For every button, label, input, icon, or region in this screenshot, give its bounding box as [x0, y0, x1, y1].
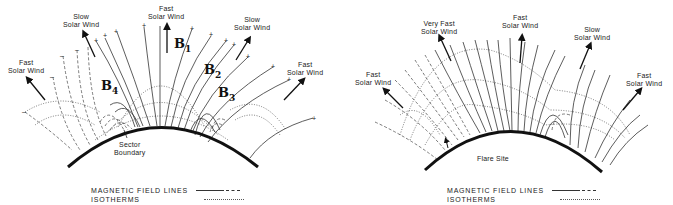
svg-text:+: + [312, 115, 316, 122]
wind-label-fast-far-right: Fast Solar Wind [287, 61, 323, 77]
wind-label-very-fast: Very Fast Solar Wind [421, 20, 457, 36]
svg-text:+: + [287, 76, 291, 83]
svg-text:–: – [50, 73, 54, 80]
diagram-right-graphic [340, 0, 673, 205]
svg-text:–: – [75, 46, 79, 53]
sector-boundary-line1: Sector [114, 141, 146, 149]
panel-flare-site: Fast Solar Wind Very Fast Solar Wind Fas… [340, 0, 673, 205]
legend-row-field-lines: MAGNETIC FIELD LINES [91, 186, 244, 195]
wind-label-line1: Slow [234, 16, 270, 24]
wind-label-line2: Solar Wind [8, 67, 44, 75]
svg-text:+: + [232, 41, 236, 48]
wind-label-line1: Fast [626, 72, 662, 80]
sector-boundary-line2: Boundary [114, 149, 146, 157]
wind-label-line2: Solar Wind [63, 21, 99, 29]
field-label-b4: B4 [101, 78, 118, 96]
svg-text:–: – [22, 108, 26, 115]
legend-isotherms-label: ISOTHERMS [447, 196, 552, 203]
field-subscript: 3 [229, 93, 235, 103]
svg-text:+: + [190, 25, 194, 32]
legend-left: MAGNETIC FIELD LINES ISOTHERMS [91, 186, 244, 204]
wind-label-line1: Fast [287, 61, 323, 69]
field-subscript: 4 [112, 86, 118, 96]
wind-label-line2: Solar Wind [234, 24, 270, 32]
legend-dashed-line-swatch [582, 190, 596, 191]
wind-label-line1: Slow [574, 26, 610, 34]
legend-row-field-lines: MAGNETIC FIELD LINES [447, 186, 600, 195]
wind-label-fast-far-left: Fast Solar Wind [8, 59, 44, 75]
legend-dotted-line-swatch [560, 199, 600, 200]
wind-label-slow-left: Slow Solar Wind [63, 13, 99, 29]
svg-text:+: + [224, 37, 228, 44]
field-subscript: 2 [215, 70, 221, 80]
wind-label-line2: Solar Wind [421, 28, 457, 36]
field-label-b1: B1 [174, 36, 191, 54]
wind-label-line1: Fast [8, 59, 44, 67]
wind-label-fast-far-left: Fast Solar Wind [355, 71, 391, 87]
field-label-b3: B3 [218, 85, 235, 103]
legend-solid-line-swatch [552, 190, 580, 191]
svg-text:+: + [103, 32, 107, 39]
wind-label-line1: Fast [355, 71, 391, 79]
legend-field-lines-label: MAGNETIC FIELD LINES [91, 187, 196, 194]
diagram-left-graphic: +++ +++ +++ +++ –––– [0, 0, 340, 205]
wind-label-line2: Solar Wind [502, 22, 538, 30]
svg-text:+: + [94, 37, 98, 44]
svg-text:+: + [271, 63, 275, 70]
legend-dotted-line-swatch [204, 199, 244, 200]
wind-label-line2: Solar Wind [626, 80, 662, 88]
wind-label-line1: Very Fast [421, 20, 457, 28]
wind-label-fast-far-right: Fast Solar Wind [626, 72, 662, 88]
sector-boundary-label: Sector Boundary [114, 141, 146, 157]
legend-row-isotherms: ISOTHERMS [91, 195, 244, 204]
svg-text:+: + [142, 22, 146, 29]
legend-row-isotherms: ISOTHERMS [447, 195, 600, 204]
wind-label-fast-center: Fast Solar Wind [148, 5, 184, 21]
wind-label-line1: Slow [63, 13, 99, 21]
svg-text:+: + [209, 31, 213, 38]
wind-label-fast-center: Fast Solar Wind [502, 14, 538, 30]
field-subscript: 1 [185, 44, 191, 54]
flare-site-label: Flare Site [477, 155, 509, 163]
wind-label-line1: Fast [148, 5, 184, 13]
wind-label-line2: Solar Wind [287, 69, 323, 77]
wind-label-line1: Fast [502, 14, 538, 22]
wind-label-line2: Solar Wind [148, 13, 184, 21]
legend-isotherms-label: ISOTHERMS [91, 196, 196, 203]
legend-right: MAGNETIC FIELD LINES ISOTHERMS [447, 186, 600, 204]
legend-solid-line-swatch [196, 190, 224, 191]
panel-sector-boundary: +++ +++ +++ +++ –––– Fast Solar Wind Slo… [0, 0, 340, 205]
svg-text:+: + [114, 28, 118, 35]
svg-text:+: + [246, 53, 250, 60]
legend-field-lines-label: MAGNETIC FIELD LINES [447, 187, 552, 194]
wind-label-slow: Slow Solar Wind [574, 26, 610, 42]
wind-label-slow-right: Slow Solar Wind [234, 16, 270, 32]
wind-label-line2: Solar Wind [355, 79, 391, 87]
flare-site-text: Flare Site [477, 155, 509, 163]
wind-label-line2: Solar Wind [574, 34, 610, 42]
legend-dashed-line-swatch [226, 190, 240, 191]
field-label-b2: B2 [204, 62, 221, 80]
svg-text:–: – [60, 52, 64, 59]
